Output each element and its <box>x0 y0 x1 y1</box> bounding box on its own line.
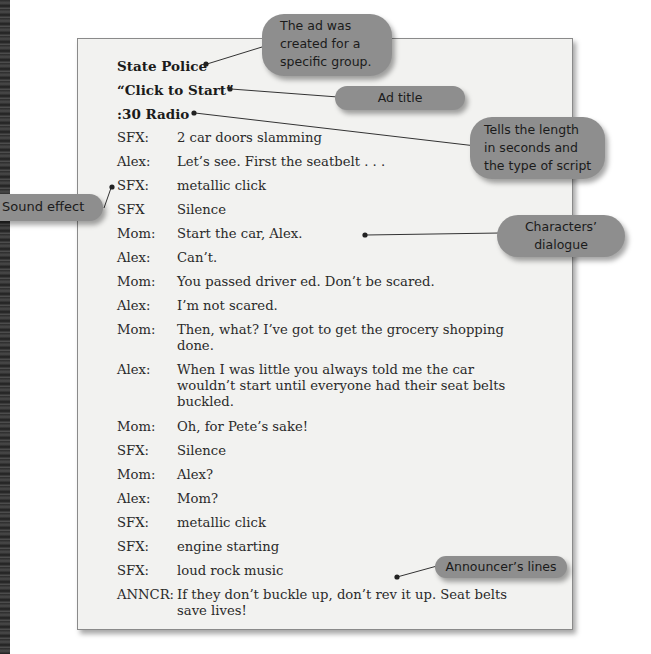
line-text: Mom? <box>177 491 547 507</box>
speaker: SFX: <box>117 443 177 459</box>
script-line: Mom:You passed driver ed. Don’t be scare… <box>117 274 547 290</box>
callout-target-group: The ad was created for a specific group. <box>262 14 392 76</box>
script-line: SFXSilence <box>117 202 547 218</box>
script-line: Alex:Can’t. <box>117 250 547 266</box>
script-line: Alex:I’m not scared. <box>117 298 547 314</box>
line-text: Then, what? I’ve got to get the grocery … <box>177 322 547 354</box>
speaker: Alex: <box>117 154 177 170</box>
script-line: Mom:Oh, for Pete’s sake! <box>117 419 547 435</box>
speaker: SFX: <box>117 563 177 579</box>
speaker: SFX: <box>117 539 177 555</box>
speaker: Alex: <box>117 362 177 410</box>
speaker: Mom: <box>117 419 177 435</box>
script-line: SFX:Silence <box>117 443 547 459</box>
speaker: ANNCR: <box>117 587 177 619</box>
line-text: I’m not scared. <box>177 298 547 314</box>
speaker: SFX: <box>117 515 177 531</box>
speaker: SFX <box>117 202 177 218</box>
speaker: SFX: <box>117 130 177 146</box>
line-text: metallic click <box>177 178 547 194</box>
script-line: Mom:Then, what? I’ve got to get the groc… <box>117 322 547 354</box>
line-text: metallic click <box>177 515 547 531</box>
script-line: ANNCR:If they don’t buckle up, don’t rev… <box>117 587 547 619</box>
line-text: Silence <box>177 202 547 218</box>
line-text: You passed driver ed. Don’t be scared. <box>177 274 547 290</box>
speaker: Alex: <box>117 250 177 266</box>
speaker: Alex: <box>117 298 177 314</box>
callout-ad-title: Ad title <box>335 86 465 110</box>
script-line: Mom:Alex? <box>117 467 547 483</box>
callout-sound-effect: Sound effect <box>0 194 103 221</box>
callout-characters-dialogue: Characters’ dialogue <box>497 215 625 257</box>
speaker: Mom: <box>117 226 177 242</box>
script-line: Alex:When I was little you always told m… <box>117 362 547 410</box>
line-text: Silence <box>177 443 547 459</box>
speaker: Alex: <box>117 491 177 507</box>
line-text: engine starting <box>177 539 547 555</box>
line-text: When I was little you always told me the… <box>177 362 547 410</box>
script-line: SFX:engine starting <box>117 539 547 555</box>
script-line: Mom:Start the car, Alex. <box>117 226 547 242</box>
callout-length-type: Tells the length in seconds and the type… <box>470 117 605 179</box>
script-line: SFX:metallic click <box>117 178 547 194</box>
line-text: Can’t. <box>177 250 547 266</box>
speaker: SFX: <box>117 178 177 194</box>
left-border-texture <box>0 0 10 654</box>
script-line: Alex:Mom? <box>117 491 547 507</box>
speaker: Mom: <box>117 322 177 354</box>
speaker: Mom: <box>117 274 177 290</box>
script-title: “Click to Start” <box>117 78 547 102</box>
line-text: Start the car, Alex. <box>177 226 547 242</box>
line-text: If they don’t buckle up, don’t rev it up… <box>177 587 547 619</box>
speaker: Mom: <box>117 467 177 483</box>
script-line: SFX:metallic click <box>117 515 547 531</box>
line-text: Oh, for Pete’s sake! <box>177 419 547 435</box>
callout-announcer-lines: Announcer’s lines <box>435 556 567 578</box>
line-text: Alex? <box>177 467 547 483</box>
